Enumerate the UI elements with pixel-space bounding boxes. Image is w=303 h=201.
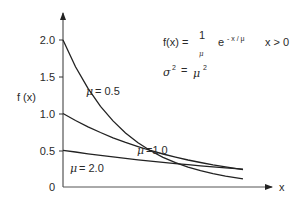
y-tick-label-0.5: 0.5: [40, 145, 55, 157]
sigma-symbol: σ: [163, 66, 171, 79]
mu-symbol: μ: [86, 85, 93, 98]
y-tick-label-2.0: 2.0: [40, 34, 55, 46]
y-axis-label: f (x): [17, 91, 36, 103]
chart: 2.0 1.5 1.0 0.5 0 f (x) x μ = 0.5 μ =1.0…: [0, 0, 303, 201]
formula-numerator: 1: [199, 29, 205, 41]
formula-exp-base: e: [218, 36, 224, 48]
series-label-text: = 2.0: [79, 162, 104, 174]
variance-equals: =: [181, 64, 187, 76]
formula-exponent: - x / μ: [227, 35, 245, 43]
curve-mu-0.5: [63, 40, 243, 179]
formula-condition: x > 0: [265, 36, 289, 48]
mu-symbol: μ: [70, 162, 77, 175]
formula-lhs: f(x) =: [163, 36, 188, 48]
variance-annotation: σ 2 = μ 2: [163, 64, 207, 80]
series-label-text: =1.0: [146, 144, 168, 156]
y-tick-label-0: 0: [49, 181, 55, 193]
series-label-mu-0.5: μ = 0.5: [86, 85, 120, 98]
x-axis-label: x: [279, 181, 285, 193]
formula-denominator: μ: [199, 50, 204, 58]
variance-mu: μ: [193, 67, 200, 80]
sigma-power: 2: [172, 64, 176, 71]
formula-annotation: f(x) = 1 μ e - x / μ x > 0: [163, 29, 289, 58]
y-tick-label-1.0: 1.0: [40, 108, 55, 120]
series-label-mu-2.0: μ = 2.0: [70, 162, 104, 175]
variance-mu-power: 2: [203, 64, 207, 71]
mu-symbol: μ: [137, 144, 144, 157]
series-label-mu-1.0: μ =1.0: [137, 144, 168, 157]
series-label-text: = 0.5: [95, 85, 120, 97]
y-tick-label-1.5: 1.5: [40, 71, 55, 83]
